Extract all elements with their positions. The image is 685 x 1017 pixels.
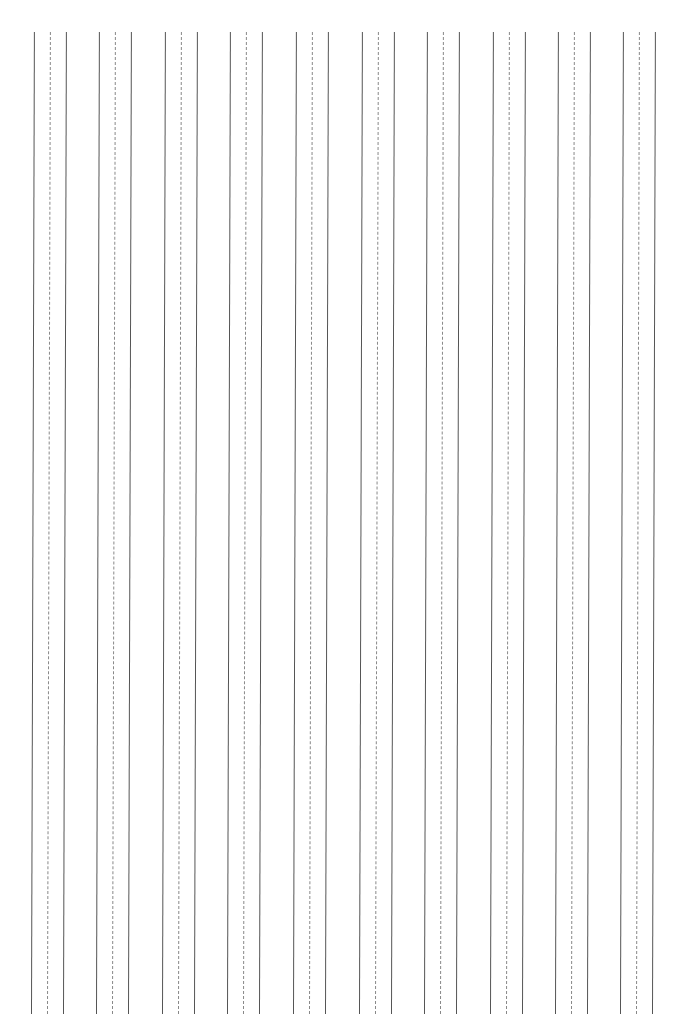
line-group (424, 32, 461, 1014)
guide-line-solid (490, 32, 494, 1014)
guide-line-solid (391, 32, 395, 1014)
line-group (555, 32, 592, 1014)
guide-line-solid (259, 32, 263, 1014)
line-group (359, 32, 396, 1014)
guide-line-dashed (440, 32, 444, 1014)
guide-line-solid (128, 32, 132, 1014)
line-group (162, 32, 199, 1014)
guide-line-dashed (47, 32, 51, 1014)
guide-line-solid (522, 32, 526, 1014)
guide-line-dashed (506, 32, 510, 1014)
guide-line-solid (162, 32, 166, 1014)
guide-line-solid (63, 32, 67, 1014)
ruled-sheet (0, 0, 685, 1017)
line-group (31, 32, 68, 1014)
guide-line-solid (325, 32, 329, 1014)
guide-line-solid (31, 32, 35, 1014)
line-group (96, 32, 133, 1014)
guide-line-solid (456, 32, 460, 1014)
guide-line-solid (652, 32, 656, 1014)
guide-line-solid (359, 32, 363, 1014)
guide-line-solid (96, 32, 100, 1014)
guide-line-solid (587, 32, 591, 1014)
guide-line-dashed (636, 32, 640, 1014)
guide-line-dashed (243, 32, 247, 1014)
guide-line-solid (555, 32, 559, 1014)
guide-line-solid (194, 32, 198, 1014)
guide-line-dashed (571, 32, 575, 1014)
guide-line-dashed (112, 32, 116, 1014)
guide-line-dashed (178, 32, 182, 1014)
guide-line-solid (293, 32, 297, 1014)
line-group (620, 32, 657, 1014)
guide-line-dashed (309, 32, 313, 1014)
guide-line-solid (227, 32, 231, 1014)
line-group (293, 32, 330, 1014)
guide-line-solid (424, 32, 428, 1014)
line-group (227, 32, 264, 1014)
guide-line-dashed (375, 32, 379, 1014)
line-group (490, 32, 527, 1014)
guide-line-solid (620, 32, 624, 1014)
